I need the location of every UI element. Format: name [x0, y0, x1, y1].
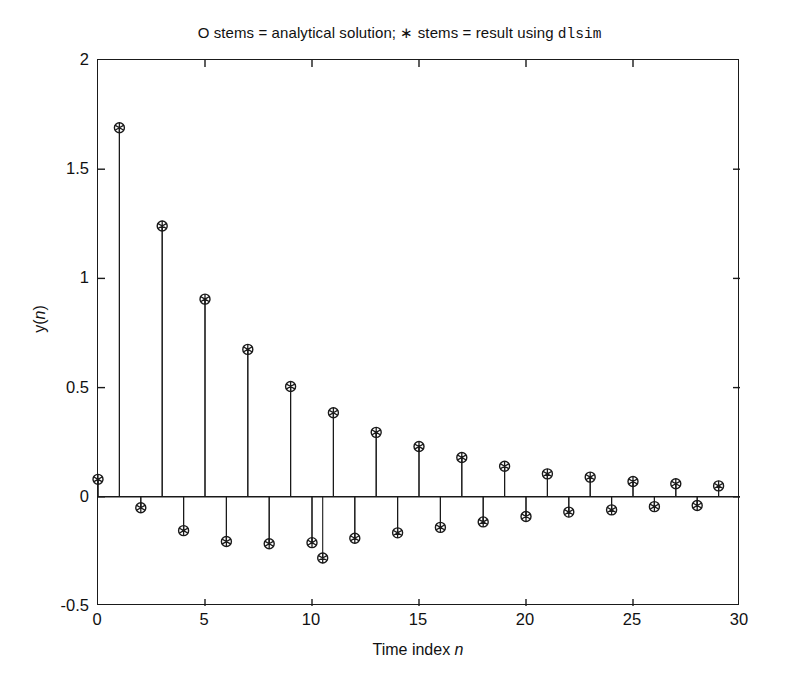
x-axis-tick-label: 5 — [199, 610, 208, 629]
y-axis-label-prefix: y( — [31, 319, 48, 332]
stem-dlsim — [564, 497, 573, 517]
stem-dlsim — [329, 408, 338, 497]
y-axis-tick-label: 1 — [80, 268, 89, 287]
stem-dlsim — [350, 497, 359, 544]
stem-dlsim — [265, 497, 274, 549]
stem-dlsim — [479, 497, 488, 527]
x-axis-label-text: Time index — [372, 641, 454, 658]
stem-plot-figure: O stems = analytical solution; ∗ stems =… — [0, 0, 799, 673]
stem-dlsim — [457, 452, 466, 497]
stem-dlsim — [586, 472, 595, 497]
stem-dlsim — [372, 427, 381, 497]
x-axis-tick-label: 15 — [409, 610, 427, 629]
y-axis-tick-label: 2 — [80, 50, 89, 69]
plot-title-text: O stems = analytical solution; ∗ stems =… — [198, 24, 558, 41]
x-axis-label-variable: n — [455, 641, 464, 658]
stem-dlsim — [436, 497, 445, 533]
y-axis-label-suffix: ) — [31, 305, 48, 310]
x-axis-tick-labels: 051015202530 — [97, 610, 739, 636]
plot-title-function-name: dlsim — [558, 26, 602, 42]
stem-dlsim — [286, 381, 295, 496]
x-axis-tick-label: 0 — [92, 610, 101, 629]
stem-dlsim — [308, 497, 317, 548]
stem-dlsim — [94, 474, 103, 497]
x-axis-tick-label: 30 — [730, 610, 748, 629]
y-axis-tick-label: 0 — [80, 486, 89, 505]
stem-series-canvas — [98, 60, 740, 606]
y-axis-tick-label: 1.5 — [66, 159, 89, 178]
stem-point-extra — [318, 497, 328, 563]
x-axis-tick-label: 10 — [302, 610, 320, 629]
stem-dlsim — [543, 469, 552, 497]
stem-dlsim — [136, 497, 145, 513]
plot-title: O stems = analytical solution; ∗ stems =… — [0, 24, 799, 42]
stem-dlsim — [522, 497, 531, 522]
stem-dlsim — [243, 344, 252, 497]
x-axis-label: Time index n — [97, 641, 739, 659]
y-axis-tick-label: 0.5 — [66, 377, 89, 396]
y-axis-tick-label: -0.5 — [61, 596, 89, 615]
stem-dlsim — [393, 497, 402, 538]
y-axis-label-variable: n — [31, 311, 48, 320]
stem-dlsim — [629, 476, 638, 496]
y-axis-label: y(n) — [31, 259, 49, 379]
stem-dlsim — [201, 294, 210, 497]
plot-area — [97, 59, 739, 605]
stem-dlsim — [500, 461, 509, 497]
stem-dlsim — [158, 221, 167, 497]
stem-dlsim — [115, 123, 124, 497]
stem-dlsim — [179, 497, 188, 536]
x-axis-tick-label: 25 — [623, 610, 641, 629]
stem-dlsim — [714, 481, 723, 497]
x-axis-tick-label: 20 — [516, 610, 534, 629]
stem-dlsim — [222, 497, 231, 547]
